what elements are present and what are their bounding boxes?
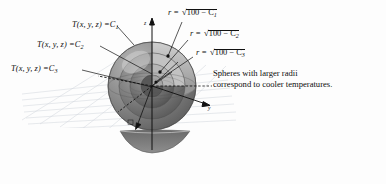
sqrt-group-2: √100 − C2	[203, 30, 239, 39]
level-surface-label-1: T(x, y, z) =C1	[72, 21, 119, 30]
axis-label-y: y	[208, 105, 210, 111]
sqrt-group-1: √100 − C1	[181, 9, 217, 18]
caption-line-1: Spheres with larger radii	[213, 68, 298, 79]
level-surface-sub-3: 3	[54, 68, 57, 74]
level-surface-lhs-2: T(x, y, z) =	[37, 40, 75, 49]
caption-line-2: correspond to cooler temperatures.	[213, 79, 332, 90]
radius-lead-2: r =	[190, 29, 201, 38]
sqrt-bar-2	[208, 30, 239, 31]
radicand-sub-2: 2	[236, 33, 239, 39]
scene-graphic	[0, 0, 386, 184]
radius-label-3: r = √100 − C3	[196, 49, 245, 58]
detached-cap	[120, 130, 190, 153]
level-surface-lhs-3: T(x, y, z) =	[11, 64, 49, 73]
radius-lead-1: r =	[168, 8, 179, 17]
radius-label-1: r = √100 − C1	[168, 9, 217, 18]
sqrt-group-3: √100 − C3	[209, 49, 245, 58]
level-surface-lhs-1: T(x, y, z) =	[72, 20, 110, 29]
radicand-sub-1: 1	[214, 12, 217, 18]
level-surface-sub-2: 2	[80, 44, 83, 50]
sqrt-bar-3	[214, 49, 245, 50]
level-surface-label-2: T(x, y, z) =C2	[37, 41, 84, 50]
radicand-sub-3: 3	[242, 52, 245, 58]
level-surface-sub-1: 1	[115, 24, 118, 30]
figure-isothermal-spheres: z y T(x, y, z) =C1 T(x, y, z) =C2 T(x, y…	[0, 0, 386, 184]
level-surface-label-3: T(x, y, z) =C3	[11, 65, 58, 74]
radius-label-2: r = √100 − C2	[190, 30, 239, 39]
sqrt-bar-1	[186, 9, 217, 10]
axis-label-z: z	[144, 20, 146, 26]
radius-lead-3: r =	[196, 48, 207, 57]
